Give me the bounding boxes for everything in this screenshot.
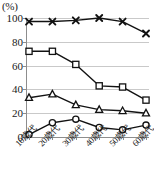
- series-line: [29, 119, 146, 134]
- square-icon: [73, 61, 79, 67]
- square-icon: [49, 48, 55, 54]
- x-axis-line: [26, 137, 149, 138]
- series-triangle: [26, 90, 150, 116]
- circle-icon: [49, 120, 55, 126]
- y-axis-tick-label: 20: [0, 108, 23, 119]
- circle-icon: [26, 132, 32, 138]
- square-icon: [120, 84, 126, 90]
- series-plot: [26, 18, 149, 137]
- series-line: [29, 94, 146, 113]
- square-icon: [143, 97, 149, 103]
- y-axis-tick-label: 60: [0, 61, 23, 72]
- y-axis-unit-label: (%): [2, 0, 18, 12]
- triangle-icon: [49, 90, 56, 97]
- circle-icon: [96, 124, 102, 130]
- triangle-icon: [119, 107, 126, 114]
- chart-container: (%) 020406080100 10歳代20歳代30歳代40歳代50歳代60歳…: [0, 0, 154, 176]
- circle-icon: [73, 116, 79, 122]
- triangle-icon: [26, 94, 33, 101]
- square-icon: [26, 48, 32, 54]
- y-axis-tick-label: 100: [0, 13, 23, 24]
- y-axis-tick-label: 0: [0, 132, 23, 143]
- square-icon: [96, 83, 102, 89]
- series-line: [29, 18, 146, 33]
- series-circle: [26, 116, 149, 138]
- y-axis-tick-label: 80: [0, 37, 23, 48]
- series-line: [29, 51, 146, 100]
- plot-area: [26, 18, 149, 137]
- triangle-icon: [96, 106, 103, 113]
- triangle-icon: [72, 101, 79, 108]
- triangle-icon: [143, 109, 150, 116]
- circle-icon: [120, 127, 126, 133]
- series-cross: [26, 15, 149, 36]
- legend-cutoff-strip: [0, 167, 154, 176]
- y-axis-tick-label: 40: [0, 84, 23, 95]
- circle-icon: [143, 122, 149, 128]
